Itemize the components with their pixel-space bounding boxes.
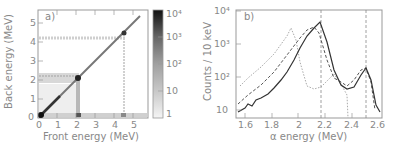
panel-b-xtick: 2 — [296, 119, 302, 130]
panel-a-xtick: 2 — [74, 119, 80, 130]
colorbar — [153, 10, 163, 118]
panel-a-xlabel: Front energy (MeV) — [43, 131, 139, 142]
panel-a-plot — [38, 10, 148, 118]
panel-a-ytick: 4 — [30, 36, 36, 47]
panel-b-xtick: 2.2 — [317, 119, 332, 130]
colorbar-tick: 10² — [166, 58, 182, 69]
panel-a-ytick: 1 — [30, 93, 36, 104]
panel-a-ytick: 0 — [28, 111, 34, 122]
panel-a-xtick: 4 — [112, 119, 118, 130]
panel-b-ytick: 10² — [214, 71, 230, 82]
panel-b-xtick: 2.6 — [370, 119, 385, 130]
panel-a-ytick: 3 — [30, 55, 36, 66]
panel-a-tag: a) — [45, 11, 55, 22]
panel-b-xtick: 1.8 — [264, 119, 279, 130]
colorbar-tick: 10 — [166, 85, 178, 96]
panel-a-xtick: 5 — [131, 119, 137, 130]
colorbar-tick: 10³ — [166, 31, 182, 42]
panel-a-xtick: 3 — [93, 119, 99, 130]
panel-a-xtick: 1 — [55, 119, 61, 130]
panel-b-ytick: 10³ — [214, 38, 230, 49]
panel-b-xlabel: α energy (MeV) — [270, 131, 347, 142]
panel-a-ytick: 5 — [30, 17, 36, 28]
colorbar-tick: 10⁴ — [166, 8, 182, 19]
panel-a-xtick: 0 — [36, 119, 42, 130]
panel-b-plot — [236, 10, 382, 118]
panel-b-tag: b) — [244, 11, 254, 22]
panel-b-xtick: 2.4 — [344, 119, 359, 130]
panel-b-ylabel: Counts / 10 keV — [202, 7, 213, 117]
panel-b-xtick: 1.6 — [238, 119, 253, 130]
panel-a-ytick: 2 — [30, 74, 36, 85]
colorbar-tick: 1 — [166, 108, 172, 119]
panel-b-ytick: 10 — [216, 104, 228, 115]
panel-a-ylabel: Back energy (MeV) — [3, 12, 14, 112]
panel-b-ytick: 10⁴ — [214, 5, 230, 16]
